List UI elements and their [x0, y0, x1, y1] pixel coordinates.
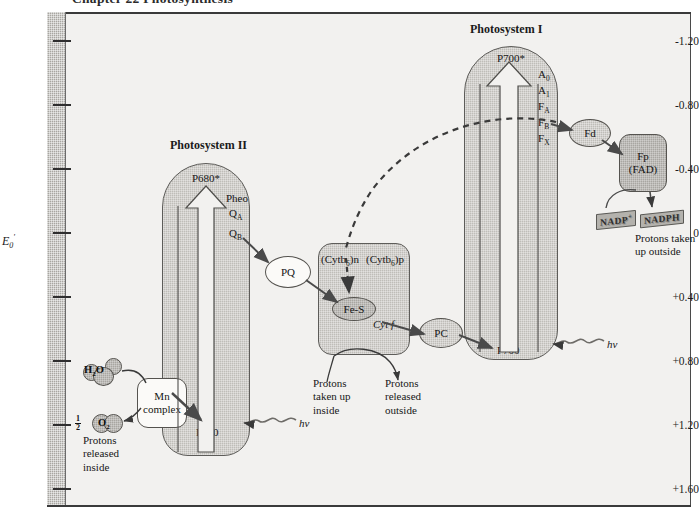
water-label-h: H	[84, 364, 92, 375]
oxygen-label-o: O	[98, 417, 106, 428]
oxygen-coefficient: 1 2	[75, 415, 81, 432]
water-label-o: O	[96, 364, 104, 375]
arrow-pc-to-p700	[459, 335, 492, 348]
fraction-denominator: 2	[75, 424, 81, 432]
figure-canvas: Chapter 22 Photosynthesis E0' -1.20-0.80…	[0, 0, 699, 517]
oxygen-label-sub: 2	[106, 423, 110, 431]
arrow-pq-to-fes	[306, 280, 337, 302]
arrow-fd-to-fp	[602, 140, 622, 154]
curve-nadp-to-fp	[606, 190, 636, 208]
water-label: H2O	[84, 364, 104, 378]
diagram-vector-overlay	[0, 0, 699, 517]
half-fraction: 1 2	[75, 415, 81, 432]
arrow-fb-to-fd	[551, 124, 572, 130]
arrow-qb-to-pq	[243, 238, 268, 262]
proton-uptake-curve	[327, 356, 334, 382]
oxygen-label: O2	[98, 417, 110, 431]
cyclic-electron-flow-dashed	[346, 118, 556, 248]
arrow-cytb6-to-fes-dashed	[346, 258, 349, 292]
proton-release-curve	[334, 349, 398, 380]
photon-wave-ps2	[244, 418, 296, 423]
arrow-cytf-to-pc	[382, 322, 424, 334]
arrow-fp-to-nadph	[650, 192, 652, 207]
curve-mn-to-oxygen	[124, 408, 141, 421]
photon-wave-ps1	[553, 339, 604, 344]
curve-water-to-mn	[122, 370, 146, 383]
arrow-mn-to-p680	[172, 393, 201, 420]
ps1-excitation-arrow	[487, 62, 531, 352]
